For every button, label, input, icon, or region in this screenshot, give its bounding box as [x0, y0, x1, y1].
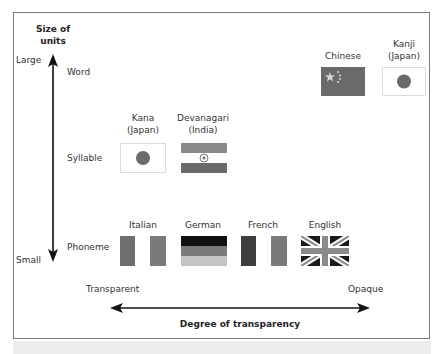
label-chinese: Chinese — [325, 51, 361, 62]
uk-flag-icon — [301, 236, 349, 266]
row-label-phoneme: Phoneme — [67, 242, 109, 253]
y-axis-large-label: Large — [16, 55, 41, 66]
vertical-double-arrow-icon — [45, 54, 61, 264]
x-axis-opaque-label: Opaque — [348, 284, 383, 295]
x-axis-title: Degree of transparency — [180, 319, 300, 330]
label-kana: Kana — [132, 113, 154, 124]
y-axis-title-line1: Size of — [36, 24, 70, 35]
india-flag-icon — [181, 143, 227, 173]
japan-flag-icon — [120, 143, 166, 173]
row-label-word: Word — [67, 67, 90, 78]
label-german: German — [185, 220, 221, 231]
horizontal-double-arrow-icon — [110, 301, 370, 315]
china-flag-icon — [321, 67, 365, 96]
label-devanagari-india: (India) — [188, 125, 217, 136]
y-axis-title-line2: units — [40, 36, 66, 47]
germany-flag-icon — [181, 236, 227, 266]
france-flag-icon — [241, 236, 287, 266]
x-axis-transparent-label: Transparent — [86, 284, 139, 295]
label-kanji: Kanji — [393, 39, 415, 50]
label-french: French — [248, 220, 278, 231]
label-italian: Italian — [129, 220, 157, 231]
label-english: English — [309, 220, 342, 231]
label-devanagari: Devanagari — [177, 113, 229, 124]
label-kanji-japan: (Japan) — [388, 51, 420, 62]
japan-flag-icon — [382, 67, 426, 96]
y-axis-small-label: Small — [16, 255, 41, 266]
italy-flag-icon — [120, 236, 166, 266]
row-label-syllable: Syllable — [67, 153, 102, 164]
caption-strip — [13, 341, 431, 354]
label-kana-japan: (Japan) — [127, 125, 159, 136]
